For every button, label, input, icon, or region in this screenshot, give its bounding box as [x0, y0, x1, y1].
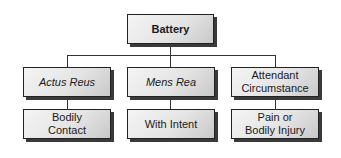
- connector-left-down: [67, 55, 68, 67]
- battery-box: Battery: [127, 14, 214, 44]
- bodily-contact-box: Bodily Contact: [23, 109, 111, 139]
- connector-middle-child: [170, 97, 171, 109]
- mens-rea-label: Mens Rea: [146, 76, 196, 89]
- actus-reus-label: Actus Reus: [39, 76, 95, 89]
- connector-middle-down: [170, 55, 171, 67]
- battery-label: Battery: [152, 23, 190, 36]
- pain-or-bodily-injury-box: Pain or Bodily Injury: [231, 109, 319, 139]
- bodily-contact-label: Bodily Contact: [48, 111, 86, 137]
- connector-root-down: [170, 44, 171, 55]
- attendant-circumstance-label: Attendant Circumstance: [241, 69, 308, 95]
- connector-right-child: [275, 97, 276, 109]
- connector-right-down: [275, 55, 276, 67]
- mens-rea-box: Mens Rea: [127, 67, 215, 97]
- actus-reus-box: Actus Reus: [23, 67, 111, 97]
- pain-or-bodily-injury-label: Pain or Bodily Injury: [245, 111, 305, 137]
- with-intent-label: With Intent: [145, 118, 198, 131]
- with-intent-box: With Intent: [127, 109, 215, 139]
- connector-left-child: [67, 97, 68, 109]
- connector-horizontal: [67, 55, 276, 56]
- attendant-circumstance-box: Attendant Circumstance: [231, 67, 319, 97]
